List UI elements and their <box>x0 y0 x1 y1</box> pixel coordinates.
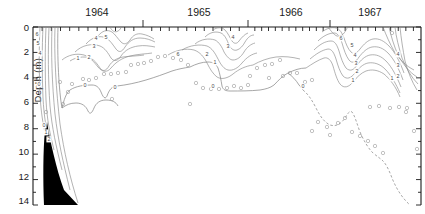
y-axis-tick-labels: 0 2 4 6 8 10 12 14 <box>18 22 29 206</box>
y-axis-right-ticks <box>416 27 421 205</box>
sample-point-22 <box>225 86 228 89</box>
year-label-1965: 1965 <box>187 6 211 18</box>
sample-point-44 <box>366 139 369 142</box>
contour-label-4-18: 4 <box>232 34 235 40</box>
y-tick-8: 8 <box>24 121 29 132</box>
sample-point-40 <box>343 116 346 119</box>
sample-point-13 <box>156 55 159 58</box>
sample-point-45 <box>373 144 376 147</box>
year-label-1967: 1967 <box>358 6 382 18</box>
depth-time-contour-chart: 1964 1965 1966 1967 0 2 4 6 8 10 12 14 <box>0 0 425 214</box>
sample-point-23 <box>232 84 235 87</box>
sample-point-5 <box>102 72 105 75</box>
sample-point-59 <box>267 76 270 79</box>
contour-label-1-15: 1 <box>214 59 217 65</box>
sample-point-19 <box>201 86 204 89</box>
contour-label-2-16: 2 <box>206 51 209 57</box>
sample-point-21 <box>217 87 220 90</box>
sample-point-57 <box>87 78 90 81</box>
contour-label-2-5: 2 <box>48 136 51 142</box>
contour-label-3-8: 3 <box>93 43 96 49</box>
contour-label-6-13: 6 <box>177 51 180 57</box>
contour-label-1-4: 1 <box>45 129 48 135</box>
sample-point-29 <box>278 58 281 61</box>
sample-point-46 <box>381 151 384 154</box>
figure-root: Depth (m) 1964 1965 1966 1967 0 2 4 6 8 … <box>0 0 425 214</box>
y-tick-10: 10 <box>18 146 29 157</box>
x-axis-month-ticks <box>42 27 413 31</box>
contour-line-0-1964 <box>58 27 190 108</box>
contour-label-5-1: 5 <box>37 40 40 46</box>
sample-point-52 <box>368 105 371 108</box>
sample-point-37 <box>325 125 328 128</box>
y-tick-14: 14 <box>18 195 29 206</box>
contour-label-0-19: 0 <box>212 83 215 89</box>
contour-label-0-14: 0 <box>114 84 117 90</box>
contour-label-6-21: 6 <box>340 35 343 41</box>
sample-point-16 <box>179 58 182 61</box>
contour-label-4-23: 4 <box>354 52 357 58</box>
sample-point-12 <box>149 59 152 62</box>
sample-point-9 <box>129 63 132 66</box>
contour-line-1-1965 <box>168 49 253 78</box>
contour-label-3-29: 3 <box>397 62 400 68</box>
sample-point-38 <box>310 129 313 132</box>
y-tick-6: 6 <box>24 96 29 107</box>
sample-point-18 <box>194 81 197 84</box>
sample-point-48 <box>397 105 400 108</box>
contour-label-4-30: 4 <box>397 51 400 57</box>
sample-point-14 <box>163 54 166 57</box>
contour-label-1-6: 1 <box>77 55 80 61</box>
contour-label-2-28: 2 <box>397 73 400 79</box>
y-axis-left-ticks <box>33 27 38 205</box>
contour-label-3-24: 3 <box>355 60 358 66</box>
sample-point-47 <box>388 106 391 109</box>
sample-point-61 <box>390 31 393 34</box>
sample-point-50 <box>412 129 415 132</box>
year-label-1964: 1964 <box>85 6 109 18</box>
sample-point-24 <box>239 86 242 89</box>
sample-point-54 <box>415 147 418 150</box>
contour-label-3-17: 3 <box>227 43 230 49</box>
contour-label-2-7: 2 <box>88 54 91 60</box>
sample-point-6 <box>109 72 112 75</box>
contour-line-0-lower-1964 <box>62 100 118 113</box>
sample-point-36 <box>316 120 319 123</box>
contour-line-2-1964 <box>70 55 144 70</box>
contour-label-0-3: 0 <box>43 122 46 128</box>
sample-point-markers <box>44 31 418 154</box>
sample-point-2 <box>70 82 73 85</box>
sample-point-51 <box>404 110 407 113</box>
sample-point-10 <box>136 62 139 65</box>
contour-label-0-20: 0 <box>302 83 305 89</box>
sample-point-53 <box>377 104 380 107</box>
sample-point-31 <box>295 71 298 74</box>
sample-point-56 <box>81 77 84 80</box>
sample-point-26 <box>255 66 258 69</box>
y-tick-2: 2 <box>24 46 29 57</box>
x-axis-year-labels: 1964 1965 1966 1967 <box>85 6 382 18</box>
contour-lines <box>39 27 418 205</box>
sample-point-49 <box>405 106 408 109</box>
sample-point-11 <box>142 61 145 64</box>
sample-point-33 <box>310 78 313 81</box>
contour-line-3-1965 <box>195 39 255 60</box>
contour-line-4-1966 <box>318 33 403 80</box>
sample-point-17 <box>186 63 189 66</box>
sample-point-42 <box>350 130 353 133</box>
axes-frame <box>33 27 421 205</box>
sample-point-41 <box>328 133 331 136</box>
y-tick-12: 12 <box>18 171 29 182</box>
contour-label-4-2: 4 <box>39 50 42 56</box>
contour-label-0-11: 0 <box>38 81 41 87</box>
sample-point-43 <box>358 134 361 137</box>
sample-point-8 <box>124 70 127 73</box>
sample-point-39 <box>336 121 339 124</box>
contour-label-4-9: 4 <box>95 35 98 41</box>
contour-line-1-transition <box>253 57 300 65</box>
contour-label-5-10: 5 <box>105 34 108 40</box>
contour-label-1-26: 1 <box>352 77 355 83</box>
contour-line-0-dashed <box>303 90 410 205</box>
year-label-1966: 1966 <box>279 6 303 18</box>
contour-label-0-12: 0 <box>84 82 87 88</box>
